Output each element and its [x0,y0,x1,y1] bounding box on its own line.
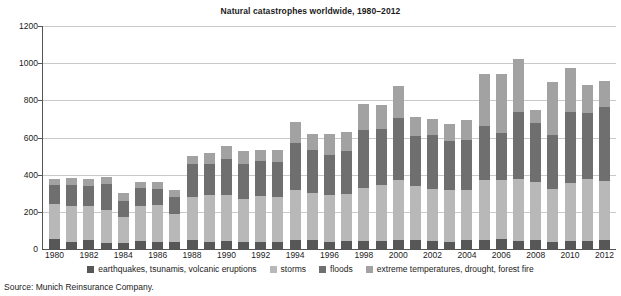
bar-group[interactable] [49,179,60,249]
x-axis-tick-label: 2008 [526,250,545,260]
bar-group[interactable] [272,150,283,249]
bar-segment [376,241,387,249]
bar-group[interactable] [461,120,472,249]
bar-series-layer [43,26,616,249]
bar-segment [221,146,232,159]
bar-segment [530,240,541,249]
bar-segment [324,134,335,155]
x-axis-tick-label: 1986 [148,250,167,260]
bar-group[interactable] [101,177,112,249]
bar-segment [169,190,180,197]
bar-group[interactable] [496,74,507,249]
bar-segment [496,180,507,239]
bar-group[interactable] [66,178,77,249]
legend-item[interactable]: extreme temperatures, drought, forest fi… [366,264,534,274]
bar-segment [152,242,163,249]
bar-segment [101,243,112,250]
bar-segment [496,239,507,249]
bar-segment [393,180,404,239]
bar-segment [272,150,283,162]
bar-group[interactable] [238,151,249,249]
bar-group[interactable] [169,190,180,249]
bar-segment [49,239,60,249]
x-axis-tick-label: 1998 [354,250,373,260]
bar-segment [461,120,472,140]
bar-segment [358,241,369,249]
bar-group[interactable] [118,193,129,249]
legend-label: floods [330,264,353,274]
bar-segment [547,189,558,242]
bar-segment [444,242,455,249]
x-axis-tick-label: 1990 [217,250,236,260]
bar-segment [255,196,266,242]
bar-segment [358,188,369,241]
y-axis-tick-mark [38,212,43,213]
bar-group[interactable] [290,122,301,249]
y-axis-tick-label: 400 [4,170,38,180]
bar-segment [307,150,318,194]
bar-segment [101,184,112,210]
bar-group[interactable] [307,134,318,249]
y-axis-tick-label: 1000 [4,58,38,68]
bar-segment [221,195,232,241]
bar-segment [427,119,438,135]
legend-item[interactable]: storms [270,264,307,274]
bar-group[interactable] [341,132,352,249]
chart-container: Natural catastrophes worldwide, 1980–201… [0,0,621,296]
bar-group[interactable] [324,134,335,249]
bar-segment [599,81,610,107]
bar-segment [307,134,318,150]
bar-group[interactable] [152,182,163,249]
bar-segment [565,68,576,113]
bar-group[interactable] [530,110,541,249]
bar-group[interactable] [187,156,198,249]
bar-segment [530,123,541,182]
bar-segment [238,151,249,163]
legend-item[interactable]: floods [319,264,353,274]
bar-group[interactable] [393,86,404,250]
bar-segment [479,180,490,239]
x-axis-tick-label: 2004 [457,250,476,260]
bar-group[interactable] [599,81,610,249]
bar-group[interactable] [582,85,593,249]
bar-group[interactable] [376,105,387,249]
bar-segment [461,140,472,190]
x-axis-tick-label: 1992 [251,250,270,260]
bar-group[interactable] [204,153,215,249]
chart-title: Natural catastrophes worldwide, 1980–201… [0,6,621,16]
y-axis-tick-mark [38,63,43,64]
x-axis-tick-label: 2000 [389,250,408,260]
bar-group[interactable] [479,74,490,249]
chart-legend: earthquakes, tsunamis, volcanic eruption… [0,264,621,274]
bar-segment [582,113,593,179]
bar-segment [187,197,198,240]
bar-group[interactable] [83,179,94,249]
bar-segment [66,242,77,249]
bar-segment [135,241,146,249]
bar-segment [582,241,593,249]
x-axis-tick-label: 2002 [423,250,442,260]
legend-swatch-icon [319,266,326,273]
bar-segment [255,242,266,249]
bar-group[interactable] [410,117,421,249]
bar-segment [324,195,335,241]
bar-segment [582,179,593,240]
bar-group[interactable] [513,59,524,249]
bar-group[interactable] [255,150,266,249]
bar-group[interactable] [427,119,438,249]
bar-segment [118,201,129,218]
bar-group[interactable] [358,104,369,249]
bar-group[interactable] [135,182,146,249]
bar-segment [565,183,576,241]
bar-group[interactable] [444,124,455,249]
y-axis-tick-mark [38,26,43,27]
bar-segment [393,240,404,249]
bar-segment [547,242,558,249]
legend-item[interactable]: earthquakes, tsunamis, volcanic eruption… [87,264,256,274]
legend-label: earthquakes, tsunamis, volcanic eruption… [98,264,256,274]
x-axis-tick-label: 1982 [79,250,98,260]
bar-group[interactable] [221,146,232,249]
bar-group[interactable] [547,82,558,249]
bar-segment [83,186,94,206]
bar-group[interactable] [565,68,576,249]
